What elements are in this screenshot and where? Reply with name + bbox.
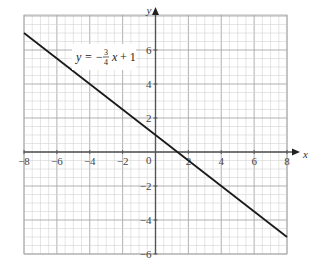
- equation-equals: =: [85, 50, 92, 64]
- y-tick-label: 2: [146, 112, 152, 124]
- equation-variable: x: [111, 50, 118, 64]
- y-tick-label: −6: [140, 248, 152, 260]
- tick-labels: −8−6−4−22468642−2−4−60xy: [18, 4, 308, 260]
- equation-sign: −: [96, 50, 103, 64]
- fraction-denominator: 4: [104, 58, 108, 67]
- axes: [24, 7, 300, 254]
- fraction-numerator: 3: [104, 48, 108, 57]
- equation-label: y = − 3 4 x + 1: [72, 44, 136, 70]
- y-axis-label: y: [146, 4, 152, 16]
- x-tick-label: −8: [18, 155, 30, 167]
- y-tick-label: 6: [146, 44, 152, 56]
- y-tick-label: −4: [140, 214, 152, 226]
- x-axis-label: x: [302, 148, 308, 160]
- line-chart: −8−6−4−22468642−2−4−60xy y = − 3 4 x + 1: [0, 0, 311, 273]
- x-tick-label: −2: [117, 155, 129, 167]
- equation-constant: + 1: [120, 50, 136, 64]
- y-tick-label: −2: [140, 180, 152, 192]
- x-tick-label: 4: [219, 155, 225, 167]
- x-tick-label: −6: [51, 155, 63, 167]
- y-tick-label: 4: [146, 78, 152, 90]
- y-axis-arrow-icon: [152, 7, 159, 15]
- x-tick-label: 6: [251, 155, 257, 167]
- x-tick-label: −4: [84, 155, 96, 167]
- x-tick-label: 8: [284, 155, 290, 167]
- x-axis-arrow-icon: [292, 149, 300, 156]
- equation-lhs: y: [75, 50, 82, 64]
- origin-label: 0: [146, 154, 152, 166]
